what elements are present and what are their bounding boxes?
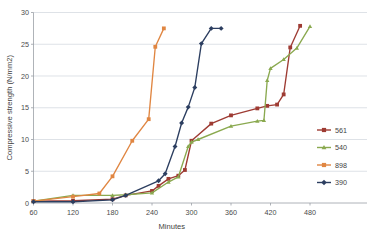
data-point-marker [97, 192, 101, 196]
data-point-marker [229, 113, 233, 117]
x-tick-label: 420 [265, 208, 277, 217]
x-axis-title: Minutes [158, 222, 185, 231]
series-line-540 [34, 26, 311, 201]
legend-label-540: 540 [335, 143, 347, 152]
x-tick-label: 300 [186, 208, 198, 217]
x-tick-label: 360 [225, 208, 237, 217]
data-point-marker [308, 24, 312, 28]
data-point-marker [147, 117, 151, 121]
y-tick-label: 0 [25, 199, 29, 208]
data-point-marker [186, 105, 191, 110]
chart-legend: 561540898390 [317, 126, 347, 188]
y-tick-label: 20 [21, 72, 29, 81]
legend-label-898: 898 [335, 161, 347, 170]
data-point-marker [288, 46, 292, 50]
y-tick-label: 5 [25, 167, 29, 176]
data-point-marker [71, 195, 75, 199]
y-axis-ticks: 051015202530 [21, 8, 34, 208]
series-line-390 [34, 28, 222, 201]
chart-canvas: 05101520253060120180240300360420480Minut… [0, 0, 374, 240]
series-line-561 [34, 26, 301, 201]
legend-label-390: 390 [335, 178, 347, 187]
legend-item-390[interactable]: 390 [317, 178, 347, 187]
legend-item-561[interactable]: 561 [317, 126, 347, 135]
data-point-marker [173, 144, 178, 149]
y-tick-label: 15 [21, 103, 29, 112]
data-point-marker [192, 85, 197, 90]
data-point-marker [179, 121, 184, 126]
data-point-marker [111, 174, 115, 178]
data-point-marker [209, 122, 213, 126]
y-tick-label: 30 [21, 8, 29, 17]
data-point-marker [275, 103, 279, 107]
data-point-marker [322, 163, 326, 167]
data-point-marker [162, 26, 166, 30]
data-point-marker [183, 168, 187, 172]
y-tick-label: 25 [21, 40, 29, 49]
series-561 [32, 24, 302, 203]
data-point-marker [321, 180, 326, 185]
x-tick-label: 180 [107, 208, 119, 217]
x-tick-label: 480 [304, 208, 316, 217]
data-point-marker [322, 128, 326, 132]
legend-label-561: 561 [335, 126, 347, 135]
series-898 [32, 26, 166, 203]
legend-item-898[interactable]: 898 [317, 161, 347, 170]
data-point-marker [130, 139, 134, 143]
data-point-marker [219, 26, 224, 31]
series-line-898 [34, 28, 164, 201]
data-point-marker [153, 45, 157, 49]
data-point-marker [265, 78, 269, 82]
series-390 [31, 26, 224, 204]
gridlines [34, 13, 368, 172]
y-axis-title: Compressive strength (N/mm2) [5, 55, 14, 161]
legend-item-540[interactable]: 540 [317, 143, 347, 152]
x-tick-label: 240 [146, 208, 158, 217]
x-axis-ticks: 60120180240300360420480 [30, 203, 317, 217]
compressive-strength-chart: 05101520253060120180240300360420480Minut… [0, 0, 374, 240]
x-tick-label: 60 [30, 208, 38, 217]
x-tick-label: 120 [67, 208, 79, 217]
y-tick-label: 10 [21, 135, 29, 144]
data-point-marker [255, 106, 259, 110]
data-point-marker [282, 93, 286, 97]
series-540 [31, 24, 312, 202]
data-point-marker [298, 24, 302, 28]
